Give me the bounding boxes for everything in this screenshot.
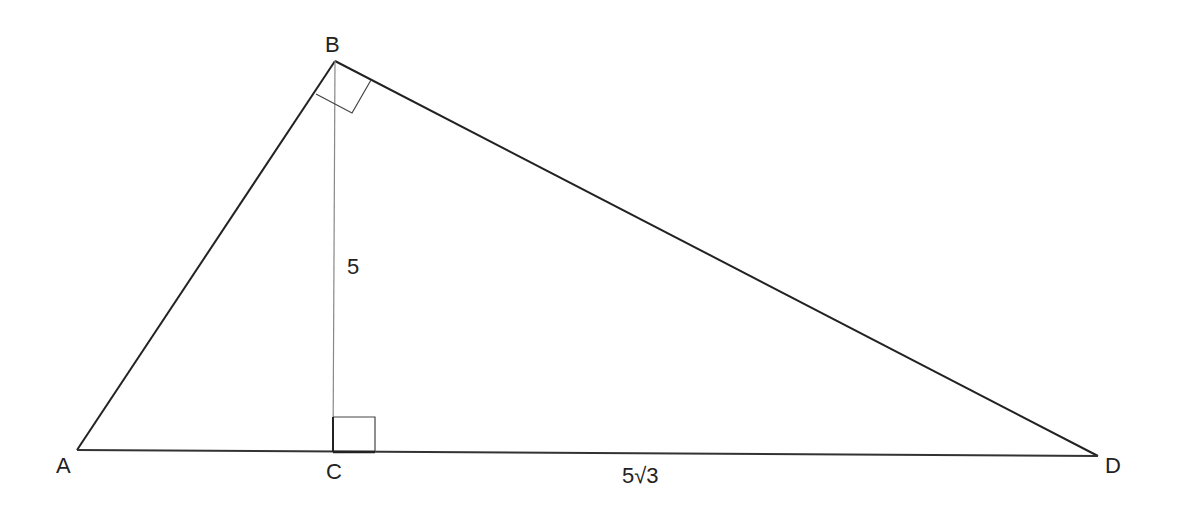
right-angle-marker-c (333, 417, 375, 452)
segment-ab (77, 61, 335, 450)
triangle-diagram (0, 0, 1184, 515)
vertex-label-c: C (326, 461, 342, 483)
segment-bd (335, 61, 1098, 456)
altitude-bc (333, 61, 335, 452)
segment-ad (77, 450, 1098, 456)
vertex-label-a: A (56, 455, 71, 477)
right-angle-marker-b (316, 80, 371, 113)
vertex-label-d: D (1105, 455, 1121, 477)
vertex-label-b: B (325, 34, 340, 56)
measurement-bc: 5 (347, 256, 359, 278)
measurement-cd: 5√3 (622, 465, 659, 487)
